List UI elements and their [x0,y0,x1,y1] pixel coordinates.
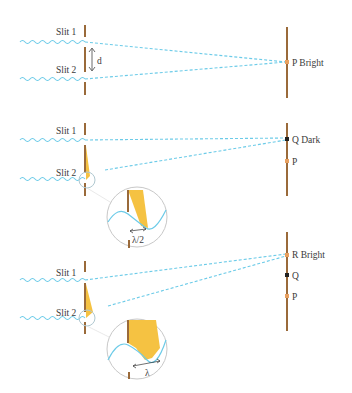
magnifier-inset: λ/2 [107,187,167,248]
path-wave-2 [85,62,286,79]
panel-3: Slit 1 Slit 2 λ R Bright Q P [20,232,325,379]
path-difference-label: λ/2 [132,235,144,245]
point-q-marker [285,273,289,277]
slit1-label: Slit 1 [56,126,77,136]
slit2-label: Slit 2 [56,65,77,75]
point-p-label: P [292,157,297,167]
point-p-label: P [292,292,297,302]
incoming-wave-1 [20,279,85,282]
panel-1: d Slit 1 Slit 2 P Bright [20,25,324,98]
incoming-wave-1 [20,41,85,44]
path-difference-wedge [86,146,90,180]
slit2-label: Slit 2 [56,168,77,178]
magnifier-inset: λ [107,319,167,379]
panel-2: Slit 1 Slit 2 λ/2 Q Dark P [20,123,320,248]
double-slit-diagram: d Slit 1 Slit 2 P Bright Slit 1 Slit 2 [0,0,352,393]
incoming-wave-1 [20,139,85,142]
point-q-marker [285,137,289,141]
point-p-label: P Bright [292,58,324,68]
path-wave-1 [85,138,286,140]
path-wave-2 [108,256,286,306]
path-wave-1 [85,254,286,280]
point-p-marker [285,60,289,64]
path-wave-1 [85,42,286,62]
incoming-wave-2 [20,78,85,81]
separation-label: d [97,56,102,66]
point-q-label: Q [292,271,299,281]
point-r-label: R Bright [292,250,325,260]
path-difference-wedge [86,284,93,318]
separation-arrow-icon [89,48,95,71]
point-p-marker [285,294,289,298]
point-p-marker [285,159,289,163]
path-wave-2 [105,140,286,170]
point-r-marker [285,253,289,257]
slit1-label: Slit 1 [56,27,77,37]
path-difference-label: λ [145,368,150,378]
slit1-label: Slit 1 [56,268,77,278]
point-q-label: Q Dark [292,135,320,145]
